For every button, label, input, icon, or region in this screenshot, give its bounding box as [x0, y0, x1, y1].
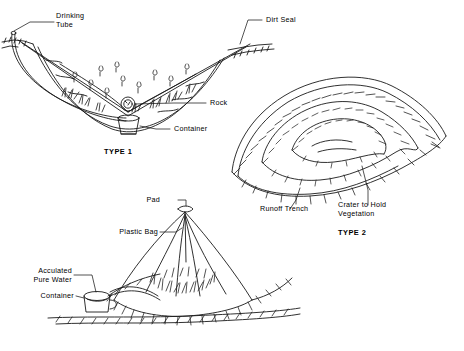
type1-drawing: [2, 31, 274, 134]
diagram-canvas: Drinking Tube Dirt Seal Rock Container T…: [0, 0, 464, 351]
label-type-1: TYPE 1: [104, 148, 132, 157]
label-runoff-trench: Runoff Trench: [260, 205, 308, 214]
leader-lines: [14, 20, 368, 298]
label-rock: Rock: [210, 99, 227, 108]
type3-drawing: [48, 206, 300, 325]
label-dirt-seal: Dirt Seal: [266, 16, 296, 25]
label-pad: Pad: [146, 196, 160, 205]
label-crater-to-hold-vegetation: Crater to Hold Vegetation: [338, 201, 386, 218]
label-type-2: TYPE 2: [338, 229, 366, 238]
label-accumulated-pure-water: Acculated Pure Water: [33, 267, 72, 284]
label-drinking-tube: Drinking Tube: [56, 12, 84, 29]
label-container: Container: [174, 125, 207, 134]
label-plastic-bag: Plastic Bag: [119, 228, 158, 237]
label-container-lower: Container: [41, 292, 74, 301]
type2-drawing: [232, 77, 446, 204]
